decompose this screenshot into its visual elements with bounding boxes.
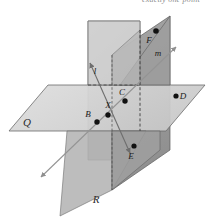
line-label-m: m [155,48,162,58]
plane-label-q: Q [23,116,31,128]
point-label-x: X [104,100,111,110]
planes-diagram: l m Q R B X C D E F [0,0,213,223]
point-label-b: B [85,109,91,119]
geometry-figure: exactly one point [0,0,213,223]
point-label-f: F [145,35,152,45]
point-label-c: C [119,87,126,97]
point-label-d: D [179,91,187,101]
plane-label-r: R [92,193,100,205]
point-label-e: E [127,151,134,161]
